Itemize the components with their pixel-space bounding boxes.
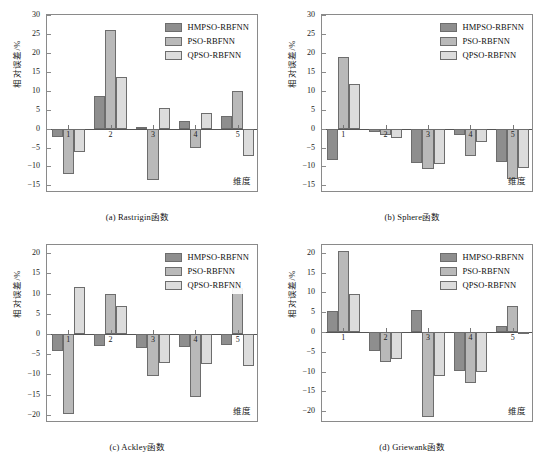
y-tick-label: 15 — [307, 267, 315, 276]
x-tick-mark — [470, 125, 471, 129]
y-tick-mark — [322, 148, 326, 149]
legend-swatch-icon-2 — [165, 281, 182, 290]
x-tick-label: 1 — [333, 130, 353, 139]
x-axis-title-a: 维度 — [233, 174, 251, 186]
legend-label-2: QPSO-RBFNN — [462, 50, 516, 60]
x-tick-mark — [428, 125, 429, 129]
chart-panel-c: 相对误差/% 20151050−5−10−15−20 12345 HMPSO-R… — [0, 230, 275, 460]
x-tick-mark — [153, 125, 154, 129]
y-tick-label: 15 — [307, 66, 315, 75]
x-tick-mark — [68, 330, 69, 334]
legend-item-2: QPSO-RBFNN — [165, 49, 249, 61]
bar — [349, 84, 360, 129]
y-tick-mark — [322, 391, 326, 392]
legend-c: HMPSO-RBFNN PSO-RBFNN QPSO-RBFNN — [163, 250, 251, 294]
chart-panel-b: 相对误差/% 302520151050−5−10−15 12345 HMPSO-… — [275, 0, 550, 230]
y-tick-label: 5 — [311, 104, 315, 113]
caption-a: (a) Rastrigin函数 — [0, 210, 275, 222]
y-tick-mark — [47, 374, 51, 375]
y-tick-mark — [322, 15, 326, 16]
x-tick-label: 5 — [503, 333, 523, 342]
legend-d: HMPSO-RBFNN PSO-RBFNN QPSO-RBFNN — [438, 250, 526, 294]
x-tick-mark — [428, 328, 429, 332]
y-tick-mark — [47, 166, 51, 167]
y-tick-label: 10 — [32, 288, 40, 297]
legend-item-1: PSO-RBFNN — [165, 265, 249, 277]
y-tick-mark — [47, 415, 51, 416]
y-tick-label: −15 — [302, 386, 315, 395]
bar — [327, 311, 338, 332]
y-tick-label: −10 — [302, 366, 315, 375]
caption-d: (d) Griewank函数 — [275, 440, 550, 452]
y-tick-label: 5 — [36, 104, 40, 113]
x-tick-mark — [195, 125, 196, 129]
y-tick-mark — [47, 91, 51, 92]
legend-label-1: PSO-RBFNN — [462, 266, 510, 276]
y-tick-label: 10 — [307, 85, 315, 94]
y-tick-label: 25 — [32, 28, 40, 37]
figure-grid: 相对误差/% 302520151050−5−10−15 12345 HMPSO-… — [0, 0, 550, 460]
y-tick-mark — [322, 372, 326, 373]
bar — [338, 251, 349, 332]
bar — [201, 113, 212, 129]
plot-area-a: 12345 HMPSO-RBFNN PSO-RBFNN QPSO-RBFNN 维… — [46, 14, 258, 192]
legend-label-1: PSO-RBFNN — [462, 36, 510, 46]
plot-area-b: 12345 HMPSO-RBFNN PSO-RBFNN QPSO-RBFNN 维… — [321, 14, 533, 192]
y-tick-label: 20 — [307, 247, 315, 256]
y-tick-mark — [322, 352, 326, 353]
plot-area-c: 12345 HMPSO-RBFNN PSO-RBFNN QPSO-RBFNN 维… — [46, 244, 258, 422]
x-tick-mark — [343, 125, 344, 129]
x-tick-mark — [195, 330, 196, 334]
y-tick-label: −5 — [31, 349, 40, 358]
y-tick-mark — [47, 129, 51, 130]
y-tick-label: 5 — [311, 307, 315, 316]
chart-panel-d: 相对误差/% 20151050−5−10−15−20 12345 HMPSO-R… — [275, 230, 550, 460]
y-tick-label: 20 — [32, 248, 40, 257]
x-tick-mark — [386, 328, 387, 332]
legend-swatch-icon-1 — [165, 37, 182, 46]
y-tick-label: −15 — [27, 389, 40, 398]
x-tick-label: 2 — [376, 130, 396, 139]
bar — [338, 57, 349, 128]
x-axis-title-b: 维度 — [508, 174, 526, 186]
x-tick-mark — [513, 328, 514, 332]
y-tick-label: 0 — [36, 123, 40, 132]
x-tick-label: 2 — [101, 335, 121, 344]
x-tick-mark — [343, 328, 344, 332]
y-tick-label: −20 — [27, 409, 40, 418]
legend-swatch-icon-1 — [165, 267, 182, 276]
x-tick-label: 2 — [376, 333, 396, 342]
y-tick-mark — [47, 395, 51, 396]
bar — [94, 96, 105, 129]
bar — [63, 334, 74, 414]
y-axis-ticks-b: 302520151050−5−10−15 — [275, 14, 319, 192]
y-tick-mark — [322, 292, 326, 293]
bar — [349, 294, 360, 332]
y-tick-mark — [47, 273, 51, 274]
caption-b: (b) Sphere函数 — [275, 210, 550, 222]
y-tick-label: 20 — [307, 47, 315, 56]
legend-swatch-icon-2 — [440, 281, 457, 290]
bar — [179, 121, 190, 129]
y-tick-label: −15 — [302, 180, 315, 189]
y-tick-label: −20 — [302, 406, 315, 415]
legend-swatch-icon-0 — [440, 23, 457, 32]
y-tick-mark — [47, 34, 51, 35]
bar — [221, 116, 232, 128]
y-tick-mark — [47, 185, 51, 186]
plot-area-d: 12345 HMPSO-RBFNN PSO-RBFNN QPSO-RBFNN 维… — [321, 244, 533, 422]
y-tick-mark — [322, 110, 326, 111]
x-tick-label: 4 — [185, 335, 205, 344]
x-tick-label: 2 — [101, 130, 121, 139]
bar — [116, 306, 127, 334]
y-tick-label: 5 — [36, 308, 40, 317]
legend-label-2: QPSO-RBFNN — [187, 280, 241, 290]
bar — [496, 326, 507, 332]
legend-item-2: QPSO-RBFNN — [165, 279, 249, 291]
y-tick-label: 20 — [32, 47, 40, 56]
bar — [232, 288, 243, 334]
y-tick-label: 25 — [307, 28, 315, 37]
y-tick-label: 10 — [32, 85, 40, 94]
legend-label-0: HMPSO-RBFNN — [462, 252, 524, 262]
legend-label-0: HMPSO-RBFNN — [187, 22, 249, 32]
